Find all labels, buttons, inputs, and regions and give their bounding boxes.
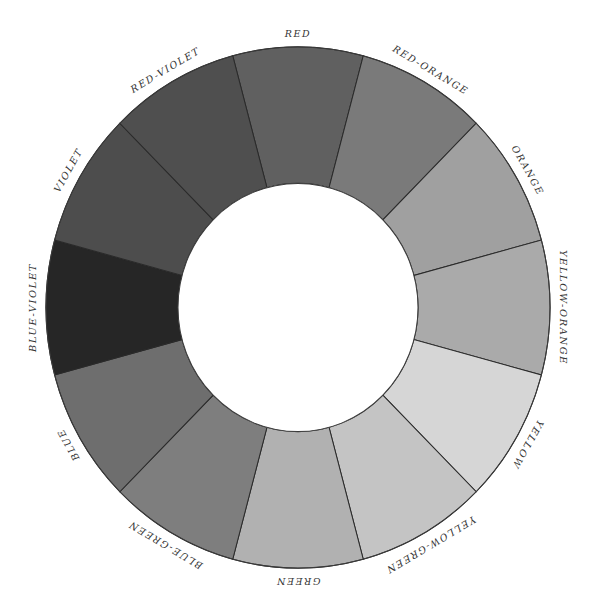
label-green: GREEN: [276, 576, 321, 587]
color-wheel: REDRED-ORANGEORANGEYELLOW-ORANGEYELLOWYE…: [0, 0, 601, 616]
label-blue-violet: BLUE-VIOLET: [27, 263, 38, 353]
label-red: RED: [284, 27, 311, 38]
inner-rim: [178, 183, 418, 431]
wheel-group: REDRED-ORANGEORANGEYELLOW-ORANGEYELLOWYE…: [27, 27, 569, 587]
label-yellow-orange: YELLOW-ORANGE: [558, 250, 569, 365]
